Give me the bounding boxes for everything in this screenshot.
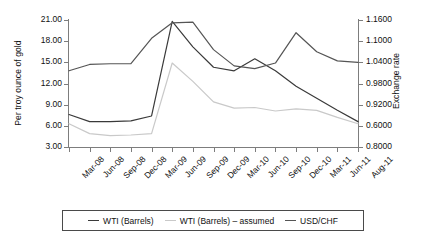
y-axis-right-tick-mark (359, 147, 363, 148)
x-axis-tick-label: Dec-08 (142, 154, 168, 180)
series-line (69, 63, 358, 136)
x-axis-tick-label: Aug-11 (369, 154, 395, 180)
legend-line-swatch (88, 220, 99, 221)
y-axis-right-tick-mark (359, 126, 363, 127)
y-axis-right-tick-mark (359, 20, 363, 21)
x-axis-tick-mark (193, 148, 194, 152)
y-axis-left-tick-mark (64, 147, 68, 148)
y-axis-left-tick-mark (64, 105, 68, 106)
x-axis-tick-label: Dec-10 (307, 154, 333, 180)
legend-item[interactable]: USD/CHF (285, 216, 338, 226)
x-axis-tick-label: Mar-08 (80, 154, 106, 180)
x-axis-tick-label: Jun-08 (100, 154, 125, 179)
chart-legend: WTI (Barrels)WTI (Barrels) – assumedUSD/… (62, 210, 364, 231)
y-axis-left-tick-mark (64, 126, 68, 127)
y-axis-left-tick-mark (64, 62, 68, 63)
x-axis-tick-mark (255, 148, 256, 152)
legend-item[interactable]: WTI (Barrels) – assumed (165, 216, 274, 226)
x-axis-tick-label: Sep-09 (204, 154, 230, 180)
x-axis-tick-label: Jun-10 (265, 154, 290, 179)
series-line (69, 21, 358, 121)
y-axis-left-tick-mark (64, 20, 68, 21)
x-axis-tick-label: Mar-11 (327, 154, 353, 180)
x-axis-tick-mark (337, 148, 338, 152)
x-axis-tick-mark (172, 148, 173, 152)
legend-item-label: WTI (Barrels) (103, 216, 154, 226)
legend-item-label: WTI (Barrels) – assumed (180, 216, 274, 226)
x-axis-tick-mark (69, 148, 70, 152)
x-axis-tick-mark (90, 148, 91, 152)
legend-line-swatch (165, 220, 176, 221)
x-axis-tick-mark (110, 148, 111, 152)
x-axis-tick-mark (152, 148, 153, 152)
y-axis-left-tick-mark (64, 41, 68, 42)
y-axis-right-tick-mark (359, 62, 363, 63)
legend-item[interactable]: WTI (Barrels) (88, 216, 154, 226)
x-axis-tick-mark (234, 148, 235, 152)
x-axis-tick-label: Sep-10 (286, 154, 312, 180)
x-axis-tick-mark (275, 148, 276, 152)
y-axis-right-tick-mark (359, 84, 363, 85)
x-axis-tick-mark (214, 148, 215, 152)
x-axis-tick-label: Jun-11 (348, 154, 373, 179)
x-axis-tick-label: Mar-09 (162, 154, 188, 180)
legend-line-swatch (285, 220, 296, 221)
y-axis-right-tick-mark (359, 105, 363, 106)
series-lines (69, 20, 358, 147)
y-axis-left-tick-mark (64, 84, 68, 85)
line-chart: Per troy ounce of gold Exchange rate 21.… (0, 0, 424, 244)
x-axis-tick-mark (296, 148, 297, 152)
x-axis-tick-mark (358, 148, 359, 152)
x-axis-tick-mark (131, 148, 132, 152)
legend-item-label: USD/CHF (300, 216, 338, 226)
plot-area (69, 20, 358, 147)
y-axis-right-tick-mark (359, 41, 363, 42)
x-axis-tick-label: Sep-08 (121, 154, 147, 180)
x-axis-tick-label: Dec-09 (225, 154, 251, 180)
series-line (69, 22, 358, 71)
x-axis-tick-mark (317, 148, 318, 152)
